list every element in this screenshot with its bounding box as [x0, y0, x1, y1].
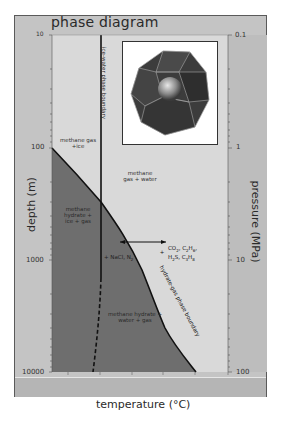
plus-sign: + [159, 249, 165, 255]
region-methane-hydrate-ice-gas: methane hydrate + ice + gas [58, 206, 98, 224]
right-tick-1: 1 [236, 143, 240, 151]
clathrate-inset-image [122, 41, 218, 145]
y-left-axis-title: depth (m) [25, 170, 38, 240]
left-tick-10000: 10000 [22, 368, 44, 376]
left-tick-100: 100 [31, 143, 44, 151]
region-methane-hydrate-water-gas: methane hydrate + water + gas [104, 311, 166, 323]
left-ticks [49, 35, 52, 372]
left-tick-1000: 1000 [26, 256, 44, 264]
y-right-axis-title: pressure (MPa) [249, 177, 262, 267]
region-label-line: water + gas [104, 317, 166, 323]
ice-water-boundary-label: ice-water phase boundary [101, 33, 107, 133]
x-axis-title: temperature (°C) [96, 398, 190, 411]
promoters-label: CO2, C2H6, H2S, C3H8 [168, 245, 218, 263]
right-tick-10: 10 [236, 256, 245, 264]
txt: , [195, 245, 197, 251]
subscript: 2 [131, 257, 134, 262]
inhibitors-text: + NaCl, N [104, 254, 131, 260]
x-axis-band [15, 377, 266, 397]
right-tick-0.1: 0.1 [235, 31, 246, 39]
promoters-line-1: CO2, C2H6, [168, 245, 218, 254]
region-label-line: gas + water [112, 176, 168, 182]
clathrate-cage-icon [123, 42, 217, 144]
txt: , C [179, 245, 186, 251]
subscript: 8 [192, 257, 195, 262]
txt: CO [168, 245, 176, 251]
left-tick-10: 10 [36, 30, 44, 37]
promoters-line-2: H2S, C3H8 [168, 254, 218, 263]
region-label-line: +ice [56, 143, 100, 149]
x-ticks [68, 372, 228, 375]
region-methane-gas-water: methane gas + water [112, 170, 168, 182]
inhibitors-label: + NaCl, N2 [104, 254, 144, 263]
txt: S, C [175, 254, 186, 260]
region-label-line: ice + gas [58, 218, 98, 224]
region-methane-gas-ice: methane gas +ice [56, 137, 100, 149]
right-tick-100: 100 [236, 368, 249, 376]
